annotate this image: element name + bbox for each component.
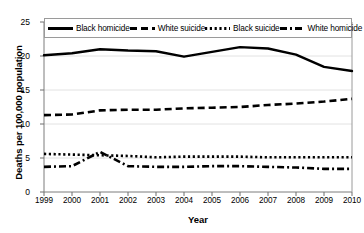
- legend-label: White suicide: [158, 23, 205, 33]
- chart-figure: Deaths per 100,000 population 0510152025…: [0, 0, 364, 233]
- solid-line-swatch: [48, 24, 73, 33]
- dashdot-line-swatch: [280, 24, 305, 33]
- dashed-line-swatch: [130, 24, 155, 33]
- series-line-white-suicide: [44, 99, 352, 115]
- legend-item-white-homicide[interactable]: White homicide: [280, 23, 363, 33]
- legend-item-white-suicide[interactable]: White suicide: [130, 23, 205, 33]
- legend-label: Black suicide: [233, 23, 279, 33]
- series-line-black-homicide: [44, 47, 352, 71]
- dotted-line-swatch: [205, 24, 230, 33]
- series-line-white-homicide: [44, 152, 352, 169]
- legend-item-black-suicide[interactable]: Black suicide: [205, 23, 279, 33]
- chart-legend: Black homicideWhite suicideBlack suicide…: [44, 18, 352, 38]
- legend-label: Black homicide: [76, 23, 130, 33]
- legend-item-black-homicide[interactable]: Black homicide: [48, 23, 130, 33]
- legend-label: White homicide: [308, 23, 363, 33]
